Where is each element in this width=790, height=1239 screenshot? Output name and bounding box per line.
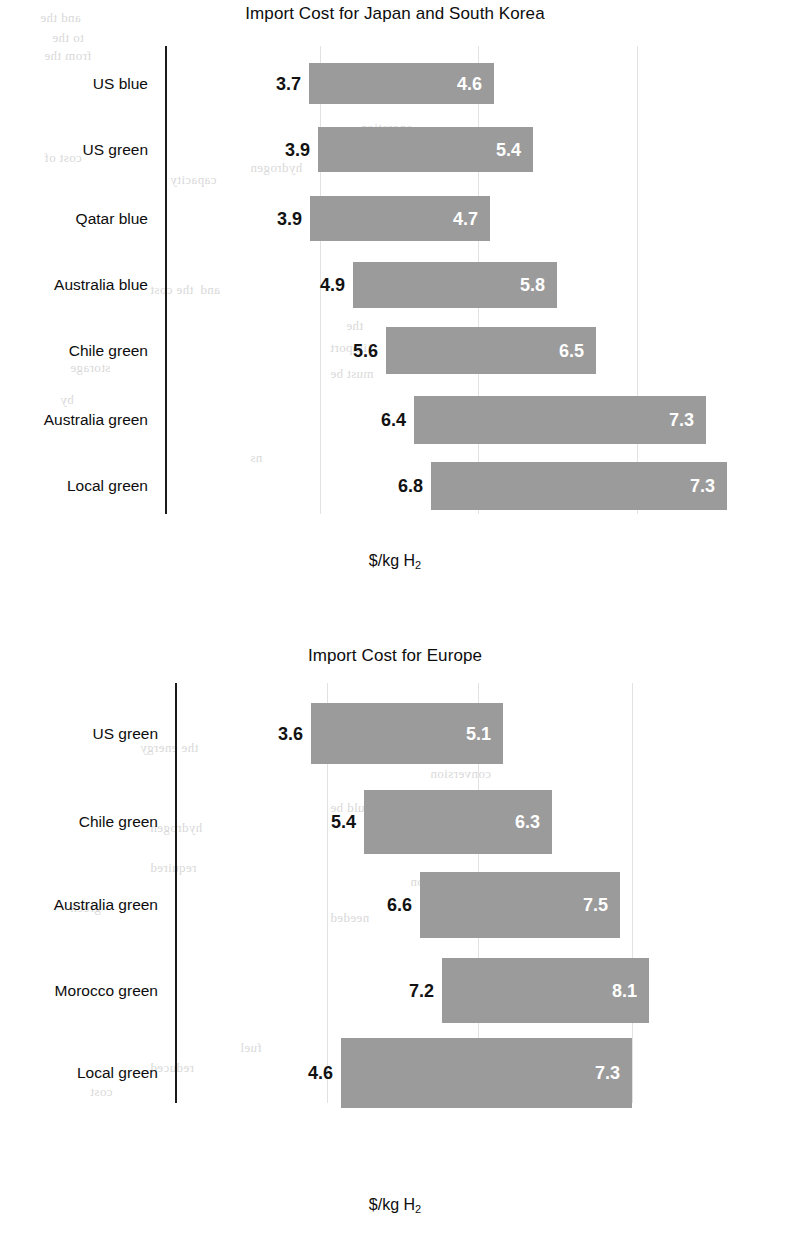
- bar-high-value-label: 5.1: [441, 725, 491, 743]
- bar-high-value-label: 7.3: [570, 1064, 620, 1082]
- x-axis-title-text: $/kg H: [369, 1196, 415, 1213]
- y-axis-line: [175, 683, 177, 1103]
- category-label: Morocco green: [0, 983, 158, 999]
- x-axis-title: $/kg H2: [0, 1196, 790, 1214]
- bar-low-value-label: 6.6: [352, 896, 412, 914]
- category-label: US green: [0, 726, 158, 742]
- bar-low-value-label: 5.4: [296, 813, 356, 831]
- category-label: Australia green: [0, 897, 158, 913]
- category-label: Chile green: [0, 814, 158, 830]
- bar-low-value-label: 4.6: [273, 1064, 333, 1082]
- gridline: [632, 683, 633, 1103]
- bar-low-value-label: 3.6: [243, 725, 303, 743]
- bar-high-value-label: 8.1: [587, 982, 637, 1000]
- chart-page: { "page": { "background_color": "#ffffff…: [0, 0, 790, 1239]
- bar-high-value-label: 6.3: [490, 813, 540, 831]
- category-label: Local green: [0, 1065, 158, 1081]
- plot-area: US green3.65.1Chile green5.46.3Australia…: [0, 0, 790, 1103]
- bar-low-value-label: 7.2: [374, 982, 434, 1000]
- bar-high-value-label: 7.5: [558, 896, 608, 914]
- x-axis-title-subscript: 2: [415, 1203, 421, 1215]
